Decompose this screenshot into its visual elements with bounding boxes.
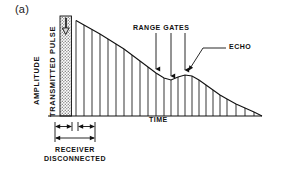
- transmitted-pulse-bar: [60, 16, 72, 116]
- dimension-indicators: [55, 122, 95, 142]
- y-axis-label: AMPLITUDE: [32, 56, 41, 105]
- echo-leader-line: [189, 48, 226, 70]
- panel-label: (a): [15, 3, 29, 15]
- gate-tick-lines: [76, 21, 254, 117]
- radar-pulse-echo-figure: (a) AMPLITUDE TRANSMITTED PULSE RANGE GA…: [0, 0, 284, 174]
- transmitted-pulse-label: TRANSMITTED PULSE: [48, 26, 57, 117]
- x-axis-label: TIME: [149, 116, 168, 123]
- range-gates-label: RANGE GATES: [133, 24, 189, 31]
- decay-envelope-curve: [76, 21, 262, 117]
- receiver-disconnected-label-line2: DISCONNECTED: [25, 155, 125, 162]
- echo-label: ECHO: [229, 43, 251, 50]
- range-gate-arrows: [156, 33, 185, 76]
- receiver-disconnected-label-line1: RECEIVER: [25, 146, 125, 153]
